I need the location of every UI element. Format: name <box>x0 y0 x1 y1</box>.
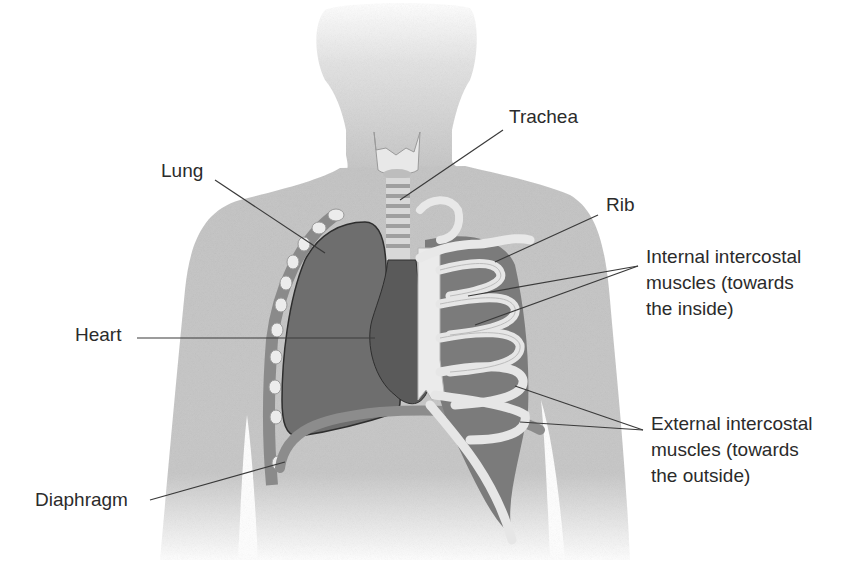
label-rib: Rib <box>606 192 635 218</box>
label-external-intercostal: External intercostal muscles (towards th… <box>651 411 813 489</box>
label-heart: Heart <box>75 322 121 348</box>
label-internal-intercostal: Internal intercostal muscles (towards th… <box>646 244 801 322</box>
label-trachea: Trachea <box>509 104 578 130</box>
label-lung: Lung <box>161 158 203 184</box>
head-shape <box>316 3 480 175</box>
label-diaphragm: Diaphragm <box>35 487 128 513</box>
